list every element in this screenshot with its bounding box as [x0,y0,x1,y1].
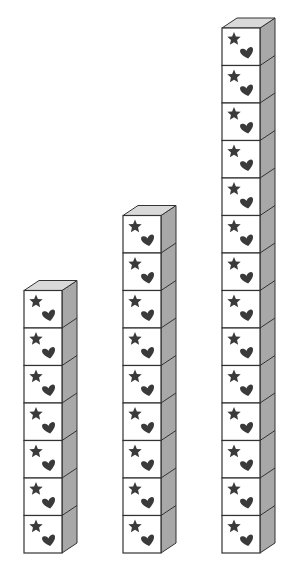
cube-front-face [222,66,260,104]
cube-front-face [123,441,161,479]
cube-front-face [24,291,62,329]
cube-front-face [123,291,161,329]
cube-front-face [222,328,260,366]
cube-front-face [222,103,260,141]
cube-front-face [222,216,260,254]
tower-side-face [161,206,176,554]
cube-front-face [24,328,62,366]
cube-front-face [123,478,161,516]
cube-towers-drawing [0,0,286,579]
cube-front-face [123,216,161,254]
tower-3 [222,18,275,553]
cube [123,216,161,254]
cube-front-face [222,516,260,554]
tower-side-face [62,281,77,554]
cube-front-face [222,178,260,216]
cube-front-face [222,141,260,179]
cube-front-face [24,441,62,479]
cube-front-face [222,28,260,66]
cube-front-face [24,516,62,554]
cube-front-face [24,478,62,516]
cube-front-face [123,403,161,441]
cube-front-face [24,403,62,441]
cube [24,291,62,329]
cube-front-face [123,328,161,366]
cube-front-face [222,366,260,404]
cube [222,28,260,66]
cube-front-face [123,516,161,554]
cube-front-face [222,478,260,516]
cube-front-face [222,253,260,291]
tower-1 [24,281,77,554]
cube-front-face [222,291,260,329]
cube-front-face [222,441,260,479]
cube-front-face [123,253,161,291]
cube-towers-figure: 7 cubes 9 cubes 14 cubes [0,0,286,579]
cube-front-face [24,366,62,404]
tower-2 [123,206,176,554]
cube-front-face [123,366,161,404]
cube-front-face [222,403,260,441]
